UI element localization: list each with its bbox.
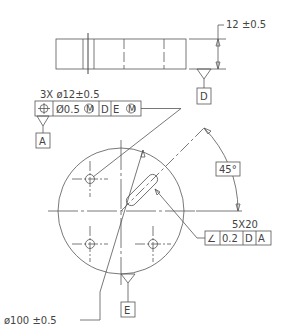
position-datum-d: D <box>101 104 109 115</box>
angle-dimension: 45° <box>219 164 237 175</box>
angularity-tolerance: 0.2 <box>222 233 238 244</box>
datum-e-modifier: M <box>128 104 136 114</box>
angularity-datum-a: A <box>258 233 265 244</box>
datum-e-label: E <box>124 305 130 316</box>
angularity-datum-d: D <box>245 233 253 244</box>
gdt-drawing: 12 ±0.5 D 3X ø12±0.5 Ø0.5 M D E M A <box>0 0 290 335</box>
hole-callout: 3X ø12±0.5 <box>40 89 100 100</box>
thickness-dimension: 12 ±0.5 <box>226 19 266 30</box>
hole-bottom-right <box>135 226 171 262</box>
position-datum-e: E <box>113 104 119 115</box>
position-tolerance: Ø0.5 <box>56 104 80 115</box>
hole-top-left <box>72 161 108 197</box>
angularity-symbol: ∠ <box>207 233 216 244</box>
datum-a-label: A <box>39 136 46 147</box>
datum-d-label: D <box>200 91 208 102</box>
mmc-modifier: M <box>86 104 94 114</box>
slot-callout: 5X20 <box>232 219 258 230</box>
diameter-dimension: ø100 ±0.5 <box>4 315 57 326</box>
